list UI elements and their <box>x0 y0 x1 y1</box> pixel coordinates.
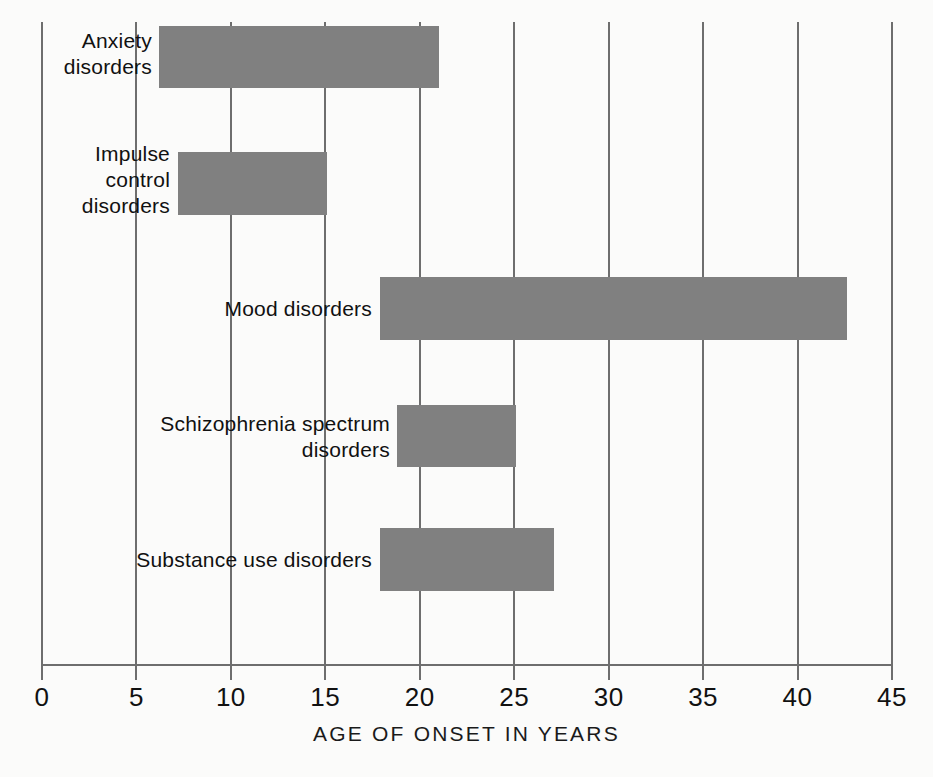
x-tick-label-15: 15 <box>295 682 355 713</box>
x-tick-label-0: 0 <box>12 682 72 713</box>
bar-anxiety-disorders <box>159 26 439 88</box>
x-axis-line <box>42 664 893 666</box>
plot-area: Anxiety disordersImpulse control disorde… <box>0 0 933 700</box>
x-tick-label-10: 10 <box>201 682 261 713</box>
bar-label-impulse-control-disorders: Impulse control disorders <box>38 141 170 219</box>
bar-label-anxiety-disorders: Anxiety disorders <box>20 28 152 80</box>
bar-impulse-control-disorders <box>178 152 327 215</box>
x-tick-label-45: 45 <box>862 682 922 713</box>
bar-mood-disorders <box>380 277 847 340</box>
gridline-45 <box>891 22 893 680</box>
gridline-40 <box>797 22 799 680</box>
bar-label-schizophrenia-spectrum-disorders: Schizophrenia spectrum disorders <box>88 411 390 463</box>
gridline-0 <box>41 22 43 680</box>
chart-figure: Anxiety disordersImpulse control disorde… <box>0 0 933 777</box>
bar-label-mood-disorders: Mood disorders <box>150 296 372 322</box>
gridline-10 <box>230 22 232 680</box>
x-tick-label-25: 25 <box>484 682 544 713</box>
gridline-15 <box>324 22 326 680</box>
gridline-35 <box>702 22 704 680</box>
x-tick-label-30: 30 <box>579 682 639 713</box>
x-axis-title: AGE OF ONSET IN YEARS <box>0 722 933 746</box>
gridline-5 <box>135 22 137 680</box>
bar-label-substance-use-disorders: Substance use disorders <box>110 547 372 573</box>
bar-substance-use-disorders <box>380 528 554 591</box>
x-tick-label-40: 40 <box>768 682 828 713</box>
bar-schizophrenia-spectrum-disorders <box>397 405 516 467</box>
gridline-30 <box>608 22 610 680</box>
x-tick-label-20: 20 <box>390 682 450 713</box>
x-tick-label-5: 5 <box>106 682 166 713</box>
x-tick-label-35: 35 <box>673 682 733 713</box>
